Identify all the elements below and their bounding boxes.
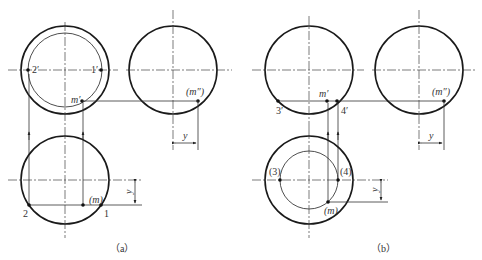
label-m-prime: m′ xyxy=(71,94,81,105)
label-1: 1 xyxy=(104,208,109,219)
label-2-prime: 2′ xyxy=(32,64,39,75)
panel-a-dim-y-top: y xyxy=(123,182,135,203)
label-m-double-prime: (m″) xyxy=(186,86,205,98)
point-3 xyxy=(278,178,282,182)
panel-b: 3′ m′ 4′ (m″) y xyxy=(252,10,476,254)
label-dim-y-top: y xyxy=(369,187,380,193)
panel-a-top-view: 2 (m) 1 xyxy=(8,130,142,238)
panel-a-front-view: 2′ 1′ m′ xyxy=(8,22,118,130)
label-1-prime: 1′ xyxy=(91,64,98,75)
panel-b-front-view: 3′ m′ 4′ xyxy=(252,16,444,130)
projection-diagram: 2′ 1′ m′ (m″) y xyxy=(0,0,482,260)
label-dim-y-top: y xyxy=(123,189,134,195)
point-m xyxy=(326,200,330,204)
label-2: 2 xyxy=(23,208,28,219)
panel-b-top-view: (3) (4) (m) xyxy=(252,130,388,238)
panel-b-dim-y-side: y xyxy=(421,130,442,143)
panel-a-dim-y-side: y xyxy=(175,130,196,143)
caption-a: （a） xyxy=(110,243,134,254)
point-4-prime xyxy=(335,99,339,103)
caption-b: （b） xyxy=(371,243,396,254)
point-2-prime xyxy=(26,68,30,72)
label-m-double-prime: (m″) xyxy=(432,86,451,98)
label-dim-y-side: y xyxy=(428,130,434,141)
panel-a: 2′ 1′ m′ (m″) y xyxy=(8,10,232,254)
label-dim-y-side: y xyxy=(182,130,188,141)
label-m: (m) xyxy=(324,205,339,217)
panel-b-dim-y-top: y xyxy=(369,182,381,200)
point-m-prime xyxy=(325,99,329,103)
point-3-prime xyxy=(276,99,280,103)
label-3-prime: 3′ xyxy=(276,105,283,116)
label-m-prime: m′ xyxy=(319,88,329,99)
panel-b-side-view: (m″) xyxy=(372,10,476,150)
panel-a-side-view: (m″) xyxy=(126,10,232,150)
point-4 xyxy=(336,178,340,182)
label-4: (4) xyxy=(340,166,352,178)
label-m: (m) xyxy=(89,194,104,206)
label-3: (3) xyxy=(269,166,281,178)
label-4-prime: 4′ xyxy=(341,105,348,116)
point-m xyxy=(81,203,85,207)
point-1-prime xyxy=(99,68,103,72)
point-2 xyxy=(27,203,31,207)
